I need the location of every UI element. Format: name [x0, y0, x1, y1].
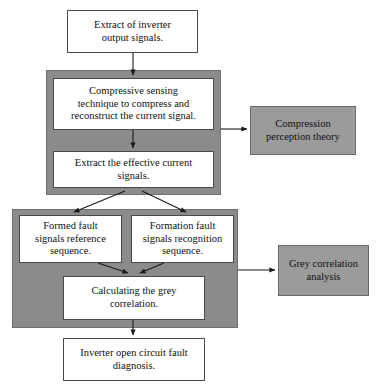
node-grey-correlation-analysis[interactable]: Grey correlation analysis	[278, 245, 369, 296]
node-formed-fault-signals-reference-sequence[interactable]: Formed fault signals reference sequence.	[19, 215, 122, 263]
node-label: Compressive sensing technique to compres…	[68, 85, 199, 123]
node-calculating-the-grey-correlation[interactable]: Calculating the grey correlation.	[63, 276, 205, 320]
node-label: Formation fault signals recognition sequ…	[140, 220, 226, 258]
node-compression-perception-theory[interactable]: Compression perception theory	[250, 106, 356, 155]
node-label: Extract of inverter output signals.	[91, 19, 174, 45]
node-label: Grey correlation analysis	[286, 258, 361, 284]
node-extract-inverter-output-signals[interactable]: Extract of inverter output signals.	[67, 10, 198, 53]
node-label: Calculating the grey correlation.	[88, 285, 179, 311]
node-formation-fault-signals-recognition-sequence[interactable]: Formation fault signals recognition sequ…	[131, 215, 234, 263]
node-label: Compression perception theory	[263, 118, 343, 144]
node-label: Inverter open circuit fault diagnosis.	[77, 347, 191, 373]
node-label: Formed fault signals reference sequence.	[32, 220, 109, 258]
node-label: Extract the effective current signals.	[72, 157, 195, 183]
node-compressive-sensing-technique[interactable]: Compressive sensing technique to compres…	[53, 78, 214, 130]
node-extract-effective-current-signals[interactable]: Extract the effective current signals.	[53, 151, 214, 188]
connector-arrows	[0, 0, 384, 390]
flowchart-diagram: Extract of inverter output signals. Comp…	[0, 0, 384, 390]
node-inverter-open-circuit-fault-diagnosis[interactable]: Inverter open circuit fault diagnosis.	[63, 338, 205, 381]
